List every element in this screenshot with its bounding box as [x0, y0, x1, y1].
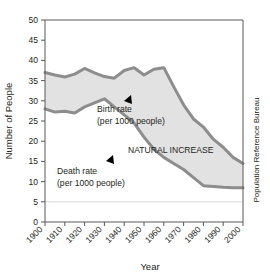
x-tick-label-1940: 1940 [103, 224, 124, 245]
y-tick-label-50: 50 [29, 15, 39, 25]
death-rate-label-line1: Death rate [57, 166, 97, 176]
demographic-transition-chart: 05101520253035404550 1900191019201930194… [0, 0, 270, 275]
x-tick-label-1910: 1910 [44, 224, 65, 245]
birth-rate-label-line1: Birth rate [97, 104, 132, 114]
x-axis-title: Year [140, 261, 159, 272]
y-tick-label-20: 20 [29, 136, 39, 146]
death-rate-label-line2: (per 1000 people) [57, 178, 125, 188]
x-tick-label-1980: 1980 [182, 224, 203, 245]
x-tick-label-1950: 1950 [123, 224, 144, 245]
y-tick-label-10: 10 [29, 177, 39, 187]
x-tick-label-1970: 1970 [163, 224, 184, 245]
x-tick-label-2000: 2000 [222, 224, 243, 245]
y-axis-title: Number of People [3, 83, 14, 160]
y-tick-label-45: 45 [29, 35, 39, 45]
birth-rate-label-line2: (per 1000 people) [97, 116, 165, 126]
natural-increase-label: NATURAL INCREASE [128, 145, 214, 155]
y-tick-label-35: 35 [29, 76, 39, 86]
y-tick-label-5: 5 [33, 197, 38, 207]
x-tick-label-1900: 1900 [24, 224, 45, 245]
y-tick-label-15: 15 [29, 156, 39, 166]
x-tick-label-1920: 1920 [64, 224, 85, 245]
y-tick-label-40: 40 [29, 55, 39, 65]
chart-canvas: 05101520253035404550 1900191019201930194… [0, 0, 270, 275]
y-axis-ticks: 05101520253035404550 [29, 15, 45, 227]
source-credit: Population Reference Bureau [252, 98, 261, 203]
x-tick-label-1960: 1960 [143, 224, 164, 245]
x-tick-label-1990: 1990 [202, 224, 223, 245]
y-tick-label-30: 30 [29, 96, 39, 106]
x-axis-ticks: 1900191019201930194019501960197019801990… [24, 222, 243, 245]
y-tick-label-25: 25 [29, 116, 39, 126]
x-tick-label-1930: 1930 [83, 224, 104, 245]
